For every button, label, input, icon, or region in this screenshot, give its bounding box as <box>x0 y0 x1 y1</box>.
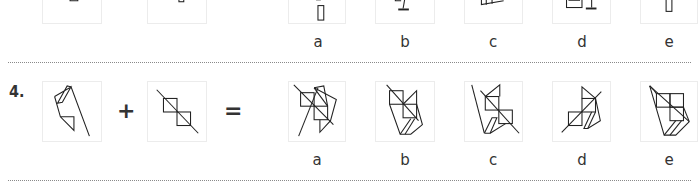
option-b-box[interactable] <box>375 81 435 142</box>
prev-operand-box-1 <box>42 0 102 24</box>
option-e-figure-icon <box>641 82 697 141</box>
prev-option-c-box[interactable] <box>464 0 523 24</box>
option-c-figure-icon <box>465 82 522 141</box>
figure-fragment-icon <box>641 0 697 23</box>
prev-option-label-b: b <box>390 33 420 51</box>
figure-fragment-icon <box>289 0 345 23</box>
prev-operand-box-2 <box>147 0 207 24</box>
prev-option-label-c: c <box>478 33 508 51</box>
prev-option-d-box[interactable] <box>552 0 611 24</box>
option-a-box[interactable] <box>288 81 346 142</box>
figure-fragment-icon <box>465 0 522 23</box>
option-a-figure-icon <box>289 82 345 141</box>
option-label-a: a <box>302 151 332 169</box>
option-label-c: c <box>478 151 508 169</box>
plus-operator: + <box>117 98 135 123</box>
operand-box-2 <box>147 81 207 142</box>
figure-2-icon <box>148 82 206 141</box>
figure-fragment-icon <box>376 0 434 23</box>
operand-box-1 <box>42 81 102 142</box>
option-label-b: b <box>390 151 420 169</box>
question-number: 4. <box>9 82 24 101</box>
option-label-d: d <box>567 151 597 169</box>
figure-fragment-icon <box>43 0 101 23</box>
option-b-figure-icon <box>376 82 434 141</box>
option-e-box[interactable] <box>640 81 698 142</box>
prev-option-a-box[interactable] <box>288 0 346 24</box>
prev-option-label-a: a <box>303 33 333 51</box>
prev-option-label-e: e <box>654 33 684 51</box>
prev-option-b-box[interactable] <box>375 0 435 24</box>
option-c-box[interactable] <box>464 81 523 142</box>
option-d-figure-icon <box>553 82 610 141</box>
option-d-box[interactable] <box>552 81 611 142</box>
figure-fragment-icon <box>553 0 610 23</box>
figure-fragment-icon <box>148 0 206 23</box>
question-separator-top <box>8 62 691 63</box>
equals-operator: = <box>224 98 242 123</box>
question-separator-bottom <box>8 180 691 181</box>
figure-1-icon <box>43 82 101 141</box>
prev-option-label-d: d <box>567 33 597 51</box>
option-label-e: e <box>654 151 684 169</box>
prev-option-e-box[interactable] <box>640 0 698 24</box>
